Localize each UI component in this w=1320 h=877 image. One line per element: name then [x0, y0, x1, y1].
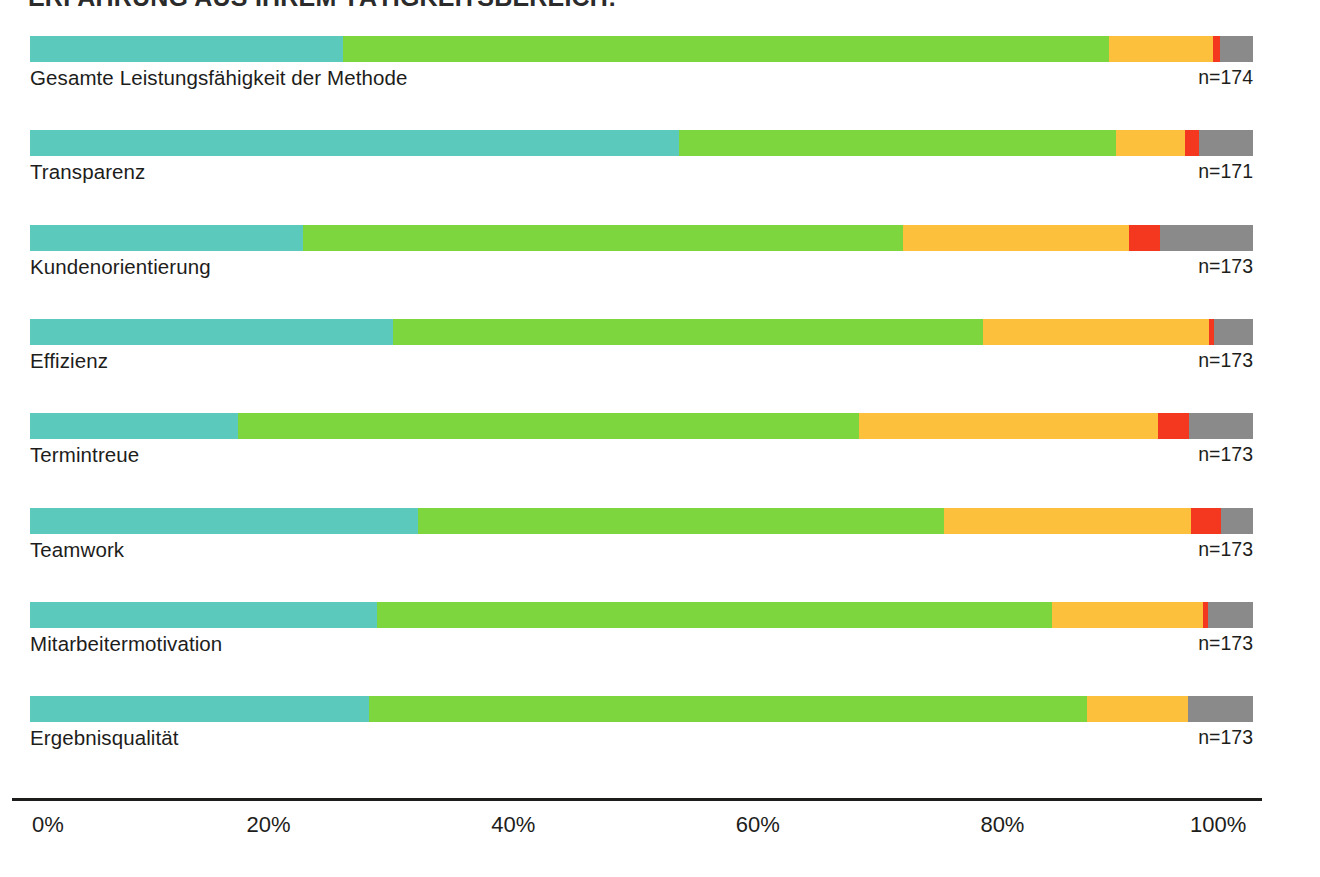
bar-sample-size: n=173 — [1198, 538, 1253, 561]
bar-category-label: Mitarbeitermotivation — [30, 632, 222, 656]
gray-segment — [1188, 696, 1253, 722]
axis-tick-label: 20% — [247, 812, 291, 838]
teal-segment — [30, 602, 377, 628]
x-axis-tick-labels: 0%20%40%60%80%100% — [0, 812, 1320, 852]
teal-segment — [30, 413, 238, 439]
axis-tick-label: 100% — [1190, 812, 1246, 838]
red-segment — [1158, 413, 1190, 439]
red-segment — [1213, 36, 1220, 62]
bar-track — [30, 130, 1253, 156]
gray-segment — [1214, 319, 1253, 345]
x-axis-line — [12, 798, 1262, 801]
red-segment — [1191, 508, 1222, 534]
bar-sample-size: n=171 — [1198, 160, 1253, 183]
red-segment — [1185, 130, 1200, 156]
yellow-segment — [1109, 36, 1213, 62]
yellow-segment — [903, 225, 1129, 251]
teal-segment — [30, 508, 418, 534]
gray-segment — [1199, 130, 1253, 156]
gray-segment — [1221, 508, 1253, 534]
bar-sample-size: n=173 — [1198, 255, 1253, 278]
gray-segment — [1220, 36, 1253, 62]
bar-category-label: Gesamte Leistungsfähigkeit der Methode — [30, 66, 408, 90]
teal-segment — [30, 696, 369, 722]
gray-segment — [1208, 602, 1253, 628]
yellow-segment — [1116, 130, 1184, 156]
bar-category-label: Teamwork — [30, 538, 124, 562]
bar-track — [30, 696, 1253, 722]
bar-sample-size: n=173 — [1198, 349, 1253, 372]
green-segment — [343, 36, 1109, 62]
yellow-segment — [1052, 602, 1202, 628]
bar-track — [30, 225, 1253, 251]
green-segment — [679, 130, 1116, 156]
yellow-segment — [1087, 696, 1189, 722]
bar-sample-size: n=174 — [1198, 66, 1253, 89]
bar-sample-size: n=173 — [1198, 443, 1253, 466]
bar-track — [30, 36, 1253, 62]
bar-track — [30, 319, 1253, 345]
yellow-segment — [944, 508, 1191, 534]
green-segment — [393, 319, 982, 345]
bar-category-label: Transparenz — [30, 160, 145, 184]
axis-tick-label: 60% — [736, 812, 780, 838]
bar-track — [30, 508, 1253, 534]
teal-segment — [30, 319, 393, 345]
yellow-segment — [983, 319, 1209, 345]
gray-segment — [1160, 225, 1253, 251]
axis-tick-label: 80% — [980, 812, 1024, 838]
axis-tick-label: 40% — [491, 812, 535, 838]
green-segment — [238, 413, 859, 439]
bar-category-label: Effizienz — [30, 349, 108, 373]
bar-track — [30, 413, 1253, 439]
stacked-bar-chart: Gesamte Leistungsfähigkeit der Methoden=… — [0, 0, 1320, 877]
bar-category-label: Termintreue — [30, 443, 139, 467]
red-segment — [1129, 225, 1160, 251]
teal-segment — [30, 36, 343, 62]
green-segment — [418, 508, 944, 534]
green-segment — [303, 225, 903, 251]
teal-segment — [30, 130, 679, 156]
bar-track — [30, 602, 1253, 628]
bar-category-label: Kundenorientierung — [30, 255, 211, 279]
teal-segment — [30, 225, 303, 251]
axis-tick-label: 0% — [32, 812, 64, 838]
yellow-segment — [859, 413, 1157, 439]
gray-segment — [1189, 413, 1253, 439]
bar-sample-size: n=173 — [1198, 632, 1253, 655]
green-segment — [377, 602, 1052, 628]
green-segment — [369, 696, 1087, 722]
bar-category-label: Ergebnisqualität — [30, 726, 179, 750]
bar-sample-size: n=173 — [1198, 726, 1253, 749]
